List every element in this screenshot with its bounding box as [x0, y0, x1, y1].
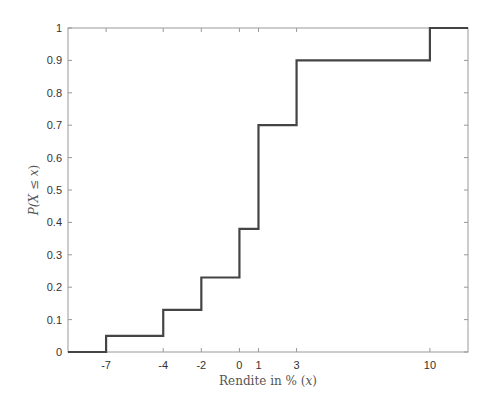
x-axis-ticks: -7-4-201310 — [101, 28, 436, 371]
y-tick-label: 1 — [56, 22, 62, 34]
axes-box — [68, 28, 468, 352]
x-axis-label: Rendite in % (x) — [219, 374, 317, 388]
x-tick-label: -2 — [196, 359, 206, 371]
plot-area — [68, 28, 468, 352]
y-tick-label: 0 — [56, 346, 62, 358]
y-tick-label: 0.4 — [47, 216, 62, 228]
y-tick-label: 0.9 — [47, 54, 62, 66]
y-tick-label: 0.1 — [47, 314, 62, 326]
y-tick-label: 0.8 — [47, 87, 62, 99]
x-tick-label: 10 — [424, 359, 436, 371]
cdf-chart: -7-4-201310 00.10.20.30.40.50.60.70.80.9… — [0, 0, 495, 408]
x-tick-label: 1 — [255, 359, 261, 371]
y-tick-label: 0.5 — [47, 184, 62, 196]
y-tick-label: 0.6 — [47, 152, 62, 164]
y-tick-label: 0.3 — [47, 249, 62, 261]
y-axis-ticks: 00.10.20.30.40.50.60.70.80.91 — [47, 22, 468, 358]
x-tick-label: 0 — [236, 359, 242, 371]
y-axis-label: P(X ≤ x) — [27, 165, 41, 216]
x-tick-label: 3 — [294, 359, 300, 371]
x-tick-label: -7 — [101, 359, 111, 371]
chart-canvas: -7-4-201310 00.10.20.30.40.50.60.70.80.9… — [0, 0, 495, 408]
cdf-step-line — [68, 28, 468, 352]
y-tick-label: 0.7 — [47, 119, 62, 131]
x-tick-label: -4 — [158, 359, 168, 371]
series-layer — [68, 28, 468, 352]
y-tick-label: 0.2 — [47, 281, 62, 293]
